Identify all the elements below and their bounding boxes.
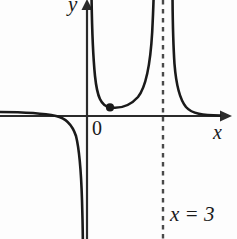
origin-label: 0: [92, 118, 102, 138]
y-axis-label: y: [68, 0, 77, 15]
rational-function-graph-figure: y x 0 x = 3: [0, 0, 237, 239]
x-axis-arrowhead: [220, 111, 232, 122]
curve-branch-right: [173, 0, 221, 116]
vertical-asymptote-label: x = 3: [170, 204, 215, 225]
curve-branch-middle: [92, 0, 154, 108]
local-minimum-point-marker: [106, 103, 114, 111]
curve-branch-left: [0, 112, 83, 239]
x-axis-label: x: [213, 122, 222, 142]
